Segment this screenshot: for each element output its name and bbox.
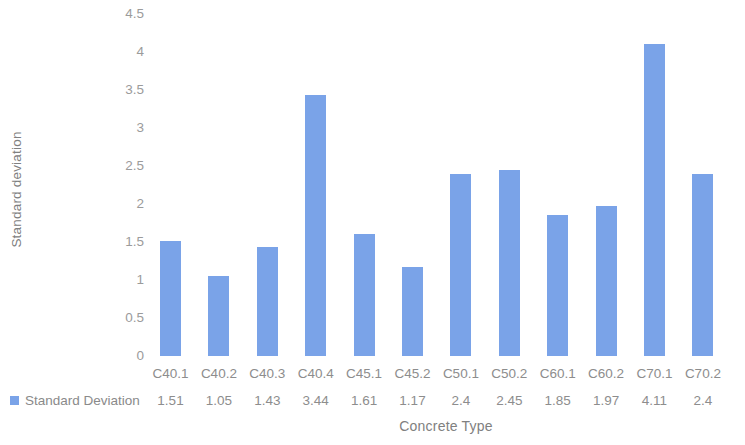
legend-entry: Standard Deviation [10,387,160,413]
bar [692,174,713,356]
x-axis-title: Concrete Type [152,418,740,434]
y-axis-tick-label: 2.5 [100,159,144,173]
y-axis-tick-label: 4 [100,45,144,59]
table-cell-category: C60.2 [582,360,630,386]
table-row: Standard Deviation 1.511.051.433.441.611… [0,387,745,413]
y-axis-tick-labels: 00.511.522.533.544.5 [100,0,144,370]
table-cell-category: C50.1 [437,360,485,386]
table-cell-category: C40.1 [147,360,195,386]
bar [160,241,181,356]
table-cell-value: 4.11 [631,387,679,413]
table-cell-value: 3.44 [292,387,340,413]
table-cell-category: C50.2 [485,360,533,386]
bar [257,247,278,356]
bars-layer [152,14,740,356]
table-cell-value: 1.43 [243,387,291,413]
table-cell-category: C45.1 [340,360,388,386]
bar [354,234,375,356]
plot-area [152,14,740,356]
bar [402,267,423,356]
bar [499,170,520,356]
y-axis-title: Standard deviation [9,90,24,290]
bar [547,215,568,356]
bar [596,206,617,356]
table-cell-value: 1.97 [582,387,630,413]
y-axis-tick-label: 1 [100,273,144,287]
y-axis-tick-label: 2 [100,197,144,211]
table-cell-value: 2.4 [437,387,485,413]
table-cell-value: 1.05 [195,387,243,413]
table-cell-value: 1.17 [389,387,437,413]
table-cell-category: C70.2 [679,360,727,386]
bar [450,174,471,356]
legend-swatch-icon [10,396,19,405]
table-cell-category: C70.1 [631,360,679,386]
data-table: C40.1C40.2C40.3C40.4C45.1C45.2C50.1C50.2… [0,360,745,415]
table-cell-category: C40.4 [292,360,340,386]
table-cell-value: 2.45 [485,387,533,413]
table-cell-category: C40.2 [195,360,243,386]
table-cell-value: 2.4 [679,387,727,413]
y-axis-tick-label: 3.5 [100,83,144,97]
y-axis-tick-label: 0.5 [100,311,144,325]
table-cell-value: 1.85 [534,387,582,413]
table-cell-category: C60.1 [534,360,582,386]
table-row: C40.1C40.2C40.3C40.4C45.1C45.2C50.1C50.2… [0,360,745,386]
table-cell-category: C40.3 [243,360,291,386]
y-axis-tick-label: 4.5 [100,7,144,21]
bar [644,44,665,356]
bar [208,276,229,356]
y-axis-tick-label: 3 [100,121,144,135]
bar [305,95,326,356]
legend-label: Standard Deviation [25,393,140,408]
table-cell-value: 1.51 [147,387,195,413]
table-cell-value: 1.61 [340,387,388,413]
table-cell-category: C45.2 [389,360,437,386]
bar-chart: Standard deviation 00.511.522.533.544.5 … [0,0,745,445]
y-axis-tick-label: 1.5 [100,235,144,249]
